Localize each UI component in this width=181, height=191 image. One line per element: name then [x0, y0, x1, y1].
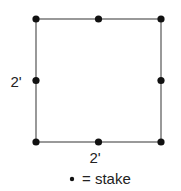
stake-middle-left	[32, 77, 39, 84]
stake-top-right	[157, 15, 164, 22]
stake-bottom-middle	[95, 138, 102, 145]
legend-stake-icon	[70, 177, 74, 181]
stake-middle-right	[157, 77, 164, 84]
stake-top-left	[32, 15, 39, 22]
left-side-label: 2'	[10, 73, 21, 90]
stake-bottom-right	[157, 138, 164, 145]
legend-text: = stake	[82, 170, 131, 187]
stake-top-middle	[95, 15, 102, 22]
square-outline	[36, 19, 161, 142]
stakes-group	[32, 15, 164, 145]
stake-bottom-left	[32, 138, 39, 145]
bottom-side-label: 2'	[89, 149, 100, 166]
stake-diagram: 2' 2' = stake	[0, 0, 181, 191]
